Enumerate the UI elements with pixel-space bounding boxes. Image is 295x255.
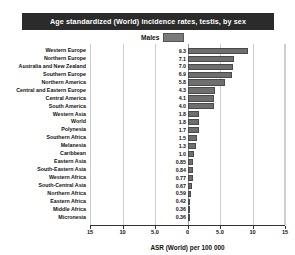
bar-value-label: 1.3: [179, 143, 186, 149]
category-label: South-Eastern Asia: [37, 166, 86, 174]
bar-males: [188, 183, 192, 189]
plot-area: 9.37.17.06.95.84.34.14.01.81.81.71.51.31…: [90, 44, 285, 225]
table-row: 0.84: [90, 166, 285, 174]
bar-males: [188, 56, 234, 62]
bar-value-label: 0.59: [176, 190, 186, 196]
legend-label-males: Males: [141, 34, 159, 41]
category-label: Southern Africa: [46, 134, 86, 142]
bar-value-label: 5.8: [179, 79, 186, 85]
category-label: Northern Africa: [47, 190, 86, 198]
table-row: 0.59: [90, 190, 285, 198]
table-row: 7.1: [90, 55, 285, 63]
bar-males: [188, 48, 248, 54]
axis-tick-label: 15: [87, 229, 93, 235]
table-row: 1.5: [90, 134, 285, 142]
table-row: 1.7: [90, 126, 285, 134]
category-label: Eastern Africa: [50, 198, 86, 206]
bar-males: [188, 159, 194, 165]
axis-tick-label: 0: [186, 229, 189, 235]
bar-males: [188, 72, 233, 78]
bar-value-label: 0.42: [176, 198, 186, 204]
category-label: Southern Europe: [43, 71, 86, 79]
chart-title-banner: Age standardized (World) incidence rates…: [22, 13, 274, 30]
category-label: Micronesia: [58, 214, 86, 222]
category-label: World: [71, 118, 86, 126]
bar-males: [188, 119, 200, 125]
legend-swatch-males: [163, 33, 184, 42]
bar-value-label: 4.0: [179, 103, 186, 109]
bar-males: [188, 103, 214, 109]
category-label: Western Europe: [45, 47, 86, 55]
axis-tick-label: 10: [119, 229, 125, 235]
table-row: 1.8: [90, 111, 285, 119]
table-row: 1.3: [90, 142, 285, 150]
bar-value-label: 0.67: [176, 183, 186, 189]
bar-value-label: 0.84: [176, 167, 186, 173]
table-row: 9.3: [90, 47, 285, 55]
bar-value-label: 4.3: [179, 87, 186, 93]
bar-value-label: 9.3: [179, 48, 186, 54]
bar-males: [188, 87, 216, 93]
table-row: 0.36: [90, 214, 285, 222]
category-label: South America: [49, 103, 86, 111]
page-title: Age standardized (World) incidence rates…: [50, 17, 246, 26]
gridline: [285, 44, 286, 225]
bar-males: [188, 175, 193, 181]
category-label: Eastern Asia: [54, 158, 86, 166]
category-label: Western Asia: [53, 111, 86, 119]
bar-value-label: 0.77: [176, 175, 186, 181]
bar-value-label: 1.8: [179, 119, 186, 125]
axis-tick-label: 5.0: [216, 229, 224, 235]
category-label: Australia and New Zealand: [19, 63, 86, 71]
category-label: Northern Europe: [44, 55, 86, 63]
bar-males: [188, 167, 193, 173]
category-label: Middle Africa: [53, 206, 86, 214]
category-label: Western Africa: [49, 174, 86, 182]
axis-tick-label: 10: [249, 229, 255, 235]
legend: Males: [141, 33, 184, 42]
bar-males: [188, 111, 200, 117]
bar-value-label: 6.9: [179, 71, 186, 77]
bar-males: [188, 127, 199, 133]
table-row: 5.8: [90, 79, 285, 87]
table-row: 6.9: [90, 71, 285, 79]
bar-males: [188, 95, 215, 101]
table-row: 0.85: [90, 158, 285, 166]
table-row: 0.67: [90, 182, 285, 190]
bar-value-label: 1.0: [179, 151, 186, 157]
bar-males: [188, 79, 226, 85]
axis-tick-label: 5.0: [151, 229, 159, 235]
bar-males: [188, 199, 191, 205]
bar-value-label: 0.36: [176, 206, 186, 212]
table-row: 4.0: [90, 103, 285, 111]
category-axis-labels: Western EuropeNorthern EuropeAustralia a…: [0, 44, 88, 225]
bar-males: [188, 64, 234, 70]
bar-value-label: 1.5: [179, 135, 186, 141]
bar-value-label: 0.36: [176, 214, 186, 220]
bar-males: [188, 151, 195, 157]
bar-value-label: 1.7: [179, 127, 186, 133]
table-row: 1.8: [90, 118, 285, 126]
table-row: 0.36: [90, 206, 285, 214]
bar-males: [188, 191, 192, 197]
bar-value-label: 7.1: [179, 56, 186, 62]
category-label: Polynesia: [61, 126, 86, 134]
bar-value-label: 1.8: [179, 111, 186, 117]
category-label: Central and Eastern Europe: [16, 87, 86, 95]
category-label: South-Central Asia: [39, 182, 86, 190]
x-axis-title-wrap: ASR (World) per 100 000: [90, 236, 285, 254]
axis-tick-label: 15: [282, 229, 288, 235]
table-row: 1.0: [90, 150, 285, 158]
table-row: 4.1: [90, 95, 285, 103]
chart-page: Age standardized (World) incidence rates…: [0, 0, 295, 255]
bar-value-label: 7.0: [179, 63, 186, 69]
category-label: Caribbean: [60, 150, 86, 158]
x-axis-title: ASR (World) per 100 000: [150, 244, 224, 251]
category-label: Melanesia: [61, 142, 86, 150]
table-row: 4.3: [90, 87, 285, 95]
bar-rows: 9.37.17.06.95.84.34.14.01.81.81.71.51.31…: [90, 44, 285, 225]
bar-males: [188, 206, 190, 212]
bar-value-label: 0.85: [176, 159, 186, 165]
bar-males: [188, 135, 198, 141]
bar-males: [188, 214, 190, 220]
